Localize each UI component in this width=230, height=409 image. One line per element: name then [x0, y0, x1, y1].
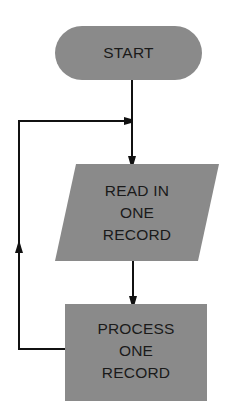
- loop-up-arrow-icon: [15, 240, 23, 253]
- read-label-line-1: READ IN: [62, 180, 212, 202]
- process-label-line-2: ONE: [65, 340, 207, 362]
- start-label: START: [55, 43, 202, 63]
- process-label: PROCESS ONE RECORD: [65, 318, 207, 384]
- read-label-line-2: ONE: [62, 202, 212, 224]
- process-label-line-1: PROCESS: [65, 318, 207, 340]
- read-label: READ IN ONE RECORD: [62, 180, 212, 246]
- start-label-line: START: [103, 44, 153, 61]
- read-label-line-3: RECORD: [62, 224, 212, 246]
- process-label-line-3: RECORD: [65, 362, 207, 384]
